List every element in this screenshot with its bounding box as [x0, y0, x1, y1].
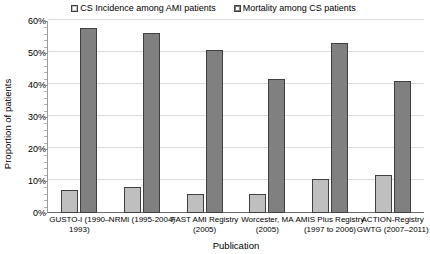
- bar-cs-incidence: [375, 175, 392, 213]
- bar-cs-incidence: [312, 179, 329, 213]
- bar-mortality: [268, 79, 285, 213]
- y-axis-minor-tick-mark: [44, 130, 47, 131]
- x-axis-category-labels: GUSTO-I (1990–1993)NRMI (1995-2004)FAST …: [48, 215, 424, 241]
- bar-mortality: [206, 50, 223, 213]
- bars-layer: [48, 21, 424, 213]
- y-axis-minor-tick-mark: [44, 207, 47, 208]
- y-axis-tick-mark: [43, 117, 47, 118]
- y-axis-minor-tick-mark: [44, 200, 47, 201]
- bar-cs-incidence: [61, 190, 78, 213]
- y-axis-minor-tick-mark: [44, 104, 47, 105]
- legend-swatch-icon-incidence: [71, 5, 78, 12]
- y-axis-minor-tick-mark: [44, 136, 47, 137]
- y-axis-tick-mark: [43, 21, 47, 22]
- x-axis-category-label-line: ACTION-Registry: [355, 215, 430, 225]
- bar-mortality: [331, 43, 348, 213]
- y-axis-tick-label: 40%: [6, 81, 46, 90]
- y-axis-minor-tick-mark: [44, 59, 47, 60]
- y-axis-tick-label: 10%: [6, 177, 46, 186]
- bar-group: [173, 21, 236, 213]
- y-axis-tick-label: 50%: [6, 49, 46, 58]
- y-axis-tick-label: 30%: [6, 113, 46, 122]
- bar-group: [236, 21, 299, 213]
- y-axis-minor-tick-mark: [44, 72, 47, 73]
- y-axis-minor-tick-mark: [44, 111, 47, 112]
- y-axis-minor-tick-mark: [44, 155, 47, 156]
- y-axis-minor-tick-mark: [44, 47, 47, 48]
- y-axis-minor-tick-mark: [44, 175, 47, 176]
- x-axis-category-label-line: 1993): [42, 225, 117, 235]
- y-axis-minor-tick-mark: [44, 194, 47, 195]
- bar-mortality: [143, 33, 160, 213]
- bar-group: [111, 21, 174, 213]
- bar-mortality: [394, 81, 411, 213]
- legend-label-incidence: CS Incidence among AMI patients: [80, 3, 216, 13]
- x-axis-category-label: ACTION-RegistryGWTG (2007–2011): [355, 215, 430, 234]
- y-axis-title: Proportion of patients: [2, 34, 14, 214]
- y-axis-minor-tick-mark: [44, 162, 47, 163]
- y-axis-minor-tick-mark: [44, 168, 47, 169]
- bar-mortality: [80, 28, 97, 213]
- y-axis-minor-tick-mark: [44, 27, 47, 28]
- y-axis-minor-tick-mark: [44, 66, 47, 67]
- x-axis-category-label-line: GWTG (2007–2011): [355, 225, 430, 235]
- y-axis-tick-mark: [43, 181, 47, 182]
- legend-label-mortality: Mortality among CS patients: [243, 3, 356, 13]
- y-axis-tick-mark: [43, 149, 47, 150]
- legend-item-mortality: Mortality among CS patients: [234, 3, 356, 13]
- chart-legend: CS Incidence among AMI patients Mortalit…: [0, 1, 427, 15]
- y-axis-tick-label: 0%: [6, 209, 46, 218]
- bar-group: [361, 21, 424, 213]
- legend-swatch-icon-mortality: [234, 5, 241, 12]
- y-axis-minor-tick-mark: [44, 143, 47, 144]
- bar-cs-incidence: [249, 194, 266, 213]
- y-axis-tick-label: 20%: [6, 145, 46, 154]
- y-axis-minor-tick-mark: [44, 34, 47, 35]
- gridline: [48, 19, 424, 20]
- y-axis-tick-mark: [43, 213, 47, 214]
- y-axis-tick-mark: [43, 85, 47, 86]
- x-axis-title: Publication: [47, 240, 425, 252]
- y-axis-minor-tick-mark: [44, 123, 47, 124]
- bar-group: [299, 21, 362, 213]
- y-axis-minor-tick-mark: [44, 98, 47, 99]
- bar-cs-incidence: [187, 194, 204, 213]
- y-axis-minor-tick-mark: [44, 40, 47, 41]
- y-axis-tick-label: 60%: [6, 17, 46, 26]
- bar-group: [48, 21, 111, 213]
- bar-cs-incidence: [124, 187, 141, 213]
- y-axis-minor-tick-mark: [44, 91, 47, 92]
- legend-item-cs-incidence: CS Incidence among AMI patients: [71, 3, 216, 13]
- y-axis-minor-tick-mark: [44, 79, 47, 80]
- y-axis-tick-mark: [43, 53, 47, 54]
- y-axis-minor-tick-mark: [44, 187, 47, 188]
